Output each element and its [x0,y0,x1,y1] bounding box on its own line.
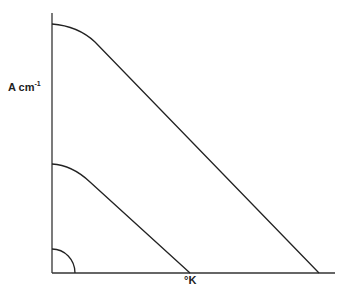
y-axis-label-text: A cm [8,81,35,93]
x-axis-label: °K [184,274,196,286]
y-axis-label: A cm-1 [8,80,41,93]
curve-small [52,249,75,273]
curve-medium [52,164,190,273]
diagram-canvas [0,0,345,292]
y-axis-label-exponent: -1 [35,80,41,87]
curve-large [52,24,319,273]
